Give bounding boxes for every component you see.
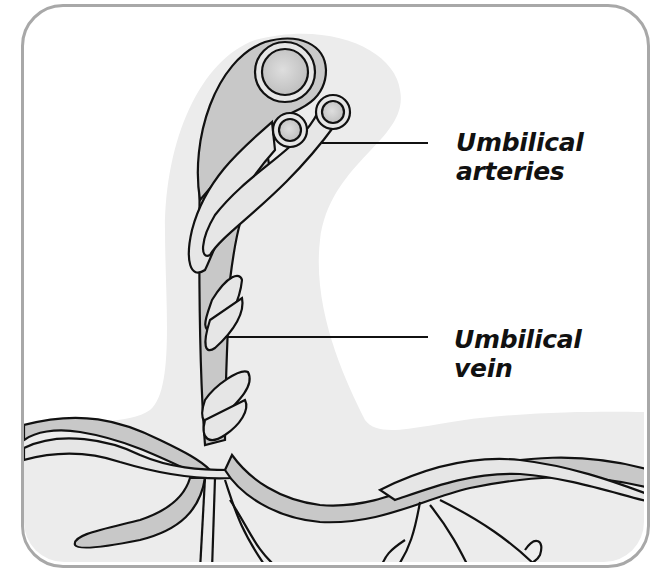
label-line: arteries	[456, 157, 584, 186]
label-line: Umbilical	[456, 128, 584, 157]
label-line: Umbilical	[454, 325, 582, 354]
label-line: vein	[454, 354, 582, 383]
umbilical-cord-illustration	[0, 0, 661, 586]
label-umbilical-arteries: Umbilical arteries	[456, 128, 584, 186]
label-umbilical-vein: Umbilical vein	[454, 325, 582, 383]
